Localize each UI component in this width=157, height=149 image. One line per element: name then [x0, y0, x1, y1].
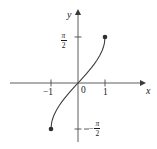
x-tick-label-neg1: −1 — [43, 88, 53, 98]
plot-canvas — [0, 0, 157, 149]
pi-over-2-denominator: 2 — [61, 42, 67, 50]
arcsin-graph-figure: y x 0 −1 1 π 2 − π 2 — [0, 0, 157, 149]
pi-over-2-fraction: π 2 — [61, 32, 67, 49]
y-tick-label-neg-pi-over-2: − π 2 — [89, 120, 100, 137]
endpoint-dot-upper — [103, 35, 108, 40]
neg-pi-over-2-fraction: π 2 — [94, 120, 100, 137]
neg-pi-over-2-denominator: 2 — [94, 130, 100, 138]
pi-over-2-numerator: π — [61, 32, 67, 40]
neg-pi-over-2-numerator: π — [94, 120, 100, 128]
endpoint-dot-lower — [49, 127, 54, 132]
x-tick-label-pos1: 1 — [103, 88, 108, 98]
y-axis-arrow-icon — [75, 9, 81, 15]
neg-pi-over-2-sign: − — [89, 124, 94, 133]
y-tick-label-pi-over-2: π 2 — [60, 32, 67, 49]
x-axis-label: x — [146, 86, 150, 96]
origin-label: 0 — [81, 86, 86, 96]
y-axis-label: y — [67, 10, 71, 20]
